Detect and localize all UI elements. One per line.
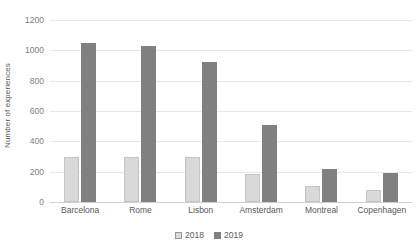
bar-copenhagen-2018[interactable] — [366, 190, 381, 202]
y-axis-tick-label: 200 — [30, 167, 44, 177]
legend-entry-2019[interactable]: 2019 — [214, 230, 243, 240]
y-axis-tick-label: 1200 — [25, 15, 44, 25]
y-axis-tick-label: 600 — [30, 106, 44, 116]
y-axis-tick-label: 400 — [30, 136, 44, 146]
bar-group — [110, 20, 170, 202]
x-axis-tick-label-amsterdam: Amsterdam — [231, 205, 291, 221]
bar-lisbon-2018[interactable] — [185, 157, 200, 202]
y-axis-tick-labels: 020040060080010001200 — [14, 20, 48, 202]
bar-barcelona-2018[interactable] — [64, 157, 79, 202]
plot-area — [50, 20, 412, 202]
bar-group — [171, 20, 231, 202]
x-axis-tick-label-lisbon: Lisbon — [171, 205, 231, 221]
y-axis-tick-label: 1000 — [25, 45, 44, 55]
bar-lisbon-2019[interactable] — [202, 62, 217, 202]
bar-group — [50, 20, 110, 202]
y-axis-title-label: Number of experiences — [3, 63, 12, 148]
bar-group — [291, 20, 351, 202]
chart-legend: 20182019 — [0, 228, 418, 242]
y-axis-tick-label: 800 — [30, 76, 44, 86]
bar-montreal-2019[interactable] — [322, 169, 337, 202]
bar-barcelona-2019[interactable] — [81, 43, 96, 202]
y-axis-tick-label: 0 — [39, 197, 44, 207]
bar-amsterdam-2018[interactable] — [245, 174, 260, 202]
legend-label-2018: 2018 — [185, 230, 204, 240]
gridline — [50, 202, 412, 203]
legend-label-2019: 2019 — [224, 230, 243, 240]
bar-amsterdam-2019[interactable] — [262, 125, 277, 202]
bar-group — [352, 20, 412, 202]
legend-entry-2018[interactable]: 2018 — [175, 230, 204, 240]
y-axis-title: Number of experiences — [0, 0, 14, 210]
x-axis-tick-label-montreal: Montreal — [291, 205, 351, 221]
bar-rome-2018[interactable] — [124, 157, 139, 202]
bar-chart: Number of experiences 020040060080010001… — [0, 0, 418, 249]
legend-swatch-icon-2018 — [175, 232, 182, 239]
x-axis-tick-label-barcelona: Barcelona — [50, 205, 110, 221]
x-axis-tick-label-rome: Rome — [110, 205, 170, 221]
bar-rome-2019[interactable] — [141, 46, 156, 202]
bar-group — [231, 20, 291, 202]
x-axis-tick-label-copenhagen: Copenhagen — [352, 205, 412, 221]
bar-montreal-2018[interactable] — [305, 186, 320, 202]
x-axis-tick-labels: BarcelonaRomeLisbonAmsterdamMontrealCope… — [50, 205, 412, 221]
bar-copenhagen-2019[interactable] — [383, 173, 398, 202]
bar-groups — [50, 20, 412, 202]
legend-swatch-icon-2019 — [214, 232, 221, 239]
